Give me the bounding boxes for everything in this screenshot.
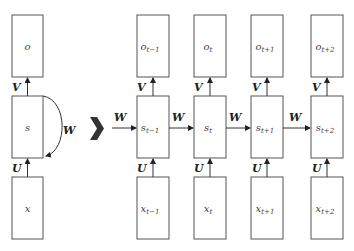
u-label: U bbox=[252, 162, 263, 175]
input-label: x bbox=[25, 203, 31, 214]
u-label: U bbox=[194, 162, 205, 175]
timestep-t-plus-1: ot+1 st+1 xt+1 V U bbox=[251, 15, 283, 239]
v-weight-label: V bbox=[12, 81, 22, 94]
w-weight-label: W bbox=[63, 124, 77, 137]
w-label: W bbox=[172, 111, 186, 124]
w-label: W bbox=[289, 111, 303, 124]
w-label: W bbox=[229, 111, 243, 124]
u-weight-label: U bbox=[12, 162, 23, 175]
u-label: U bbox=[312, 162, 323, 175]
output-label: o bbox=[24, 41, 30, 52]
state-label: s bbox=[25, 122, 30, 133]
chevron-right-icon bbox=[90, 117, 104, 140]
timestep-t: ot st xt V U bbox=[194, 15, 226, 239]
w-recurrent-loop-arrow bbox=[43, 96, 62, 156]
v-label: V bbox=[312, 81, 322, 94]
v-label: V bbox=[252, 81, 262, 94]
v-label: V bbox=[194, 81, 204, 94]
timestep-t-minus-1: ot−1 st−1 xt−1 V U bbox=[137, 15, 169, 239]
v-label: V bbox=[137, 81, 147, 94]
unfolded-network: W ot−1 st−1 xt−1 V U W ot st xt V bbox=[112, 15, 343, 239]
u-label: U bbox=[137, 162, 148, 175]
rnn-diagram: o s x V U W W ot−1 st−1 xt−1 V U bbox=[0, 0, 354, 251]
w-label-in: W bbox=[114, 111, 128, 124]
folded-network: o s x V U W bbox=[12, 15, 77, 239]
timestep-t-plus-2: ot+2 st+2 xt+2 V U bbox=[311, 15, 343, 239]
